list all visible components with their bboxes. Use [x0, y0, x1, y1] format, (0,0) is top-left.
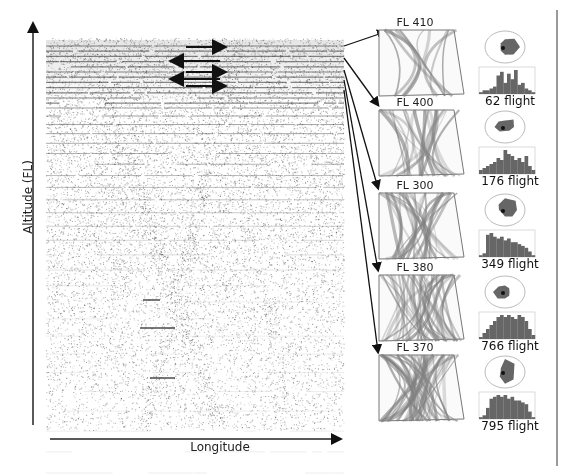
- rose-diagram-0: [482, 28, 528, 66]
- histogram-4: [478, 391, 538, 421]
- trail-map-2: [376, 191, 466, 261]
- rose-diagram-3: [482, 273, 528, 311]
- connector-arrow-3: [344, 80, 378, 270]
- trail-map-3: [376, 273, 466, 343]
- flight-count-1: 176 flight: [470, 174, 550, 188]
- flight-count-2: 349 flight: [470, 257, 550, 271]
- rose-diagram-2: [482, 191, 528, 229]
- right-border-rule: [556, 10, 558, 466]
- flight-direction-arrows: [172, 47, 224, 86]
- trail-map-1: [376, 108, 466, 178]
- rose-diagram-1: [482, 108, 528, 146]
- trail-map-4: [376, 353, 466, 423]
- x-axis-label: Longitude: [170, 440, 270, 454]
- rose-diagram-4: [482, 353, 528, 391]
- histogram-0: [478, 66, 538, 96]
- flight-count-4: 795 flight: [470, 419, 550, 433]
- histogram-1: [478, 146, 538, 176]
- histogram-3: [478, 311, 538, 341]
- histogram-2: [478, 229, 538, 259]
- flight-count-3: 766 flight: [470, 339, 550, 353]
- y-axis-label: Altitude (FL): [21, 147, 35, 247]
- connector-arrow-1: [344, 58, 378, 105]
- flight-count-0: 62 flight: [470, 94, 550, 108]
- trail-map-0: [376, 28, 466, 98]
